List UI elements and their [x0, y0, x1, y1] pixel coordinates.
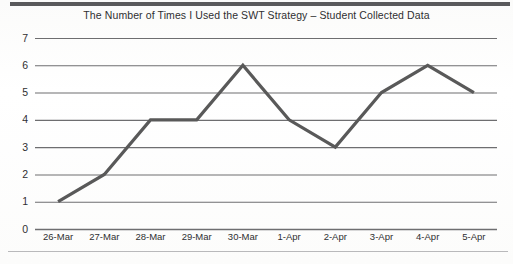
x-tick-label-3-apr: 3-Apr: [358, 232, 404, 242]
x-tick-label-4-apr: 4-Apr: [405, 232, 451, 242]
x-tick-label-5-apr: 5-Apr: [451, 232, 497, 242]
x-tick-label-26-mar: 26-Mar: [35, 232, 81, 242]
y-tick-label-5: 5: [10, 87, 28, 98]
x-tick-label-28-mar: 28-Mar: [127, 232, 173, 242]
y-tick-label-0: 0: [10, 224, 28, 235]
y-tick-label-2: 2: [10, 169, 28, 180]
x-tick-label-30-mar: 30-Mar: [220, 232, 266, 242]
y-tick-label-3: 3: [10, 142, 28, 153]
x-tick-label-27-mar: 27-Mar: [81, 232, 127, 242]
y-tick-label-6: 6: [10, 60, 28, 71]
x-tick-label-29-mar: 29-Mar: [174, 232, 220, 242]
y-tick-label-7: 7: [10, 33, 28, 44]
y-tick-label-4: 4: [10, 114, 28, 125]
x-tick-label-1-apr: 1-Apr: [266, 232, 312, 242]
x-tick-label-2-apr: 2-Apr: [312, 232, 358, 242]
bottom-divider-rule: [8, 251, 508, 252]
data-series-line: [58, 65, 474, 201]
gridline-group: [35, 39, 497, 230]
line-chart-plot: [0, 0, 513, 264]
y-tick-label-1: 1: [10, 196, 28, 207]
chart-screenshot: The Number of Times I Used the SWT Strat…: [0, 0, 513, 264]
